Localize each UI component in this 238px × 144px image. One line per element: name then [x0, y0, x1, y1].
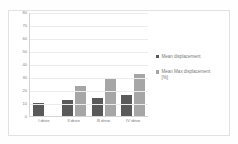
bar [105, 79, 116, 116]
bar [62, 100, 73, 116]
gridline [30, 52, 148, 53]
y-axis-tick-label: 0 [25, 115, 27, 119]
gridline [30, 91, 148, 92]
legend-swatch-icon [156, 55, 159, 58]
legend-label: Mean Max displacement[%] [162, 69, 211, 81]
legend-item[interactable]: Mean displacement [156, 54, 230, 60]
y-axis-tick-label: 10 [23, 102, 27, 106]
bar [92, 98, 103, 116]
y-axis-tick-label: 30 [23, 76, 27, 80]
y-axis-tick-label: 40 [23, 63, 27, 67]
plot-wrapper: 80706050403020100 I driveII driveIII dri… [14, 13, 148, 131]
x-axis-tick-label: IV drive [118, 119, 148, 123]
gridline [30, 13, 148, 14]
gridline [30, 65, 148, 66]
y-axis-tick-label: 20 [23, 89, 27, 93]
y-axis-labels: 80706050403020100 [14, 13, 28, 117]
plot-area [29, 13, 148, 117]
y-axis-tick-label: 70 [23, 24, 27, 28]
x-axis-labels: I driveII driveIII driveIV drive [29, 119, 148, 123]
gridline [30, 26, 148, 27]
y-axis-tick-label: 60 [23, 37, 27, 41]
x-axis-tick-label: I drive [29, 119, 59, 123]
bar [134, 74, 145, 116]
chart-legend: Mean displacementMean Max displacement[%… [156, 54, 230, 91]
bar [121, 95, 132, 116]
legend-label-line2: [%] [162, 75, 211, 81]
x-axis-tick-label: II drive [59, 119, 89, 123]
bar-chart: 80706050403020100 I driveII driveIII dri… [0, 0, 238, 144]
x-axis-tick-label: III drive [89, 119, 119, 123]
legend-swatch-icon [156, 70, 159, 73]
gridline [30, 104, 148, 105]
legend-item[interactable]: Mean Max displacement[%] [156, 69, 230, 81]
gridline [30, 39, 148, 40]
y-axis-tick-label: 50 [23, 50, 27, 54]
legend-label: Mean displacement [162, 54, 201, 60]
y-axis-tick-label: 80 [23, 11, 27, 15]
gridline [30, 78, 148, 79]
